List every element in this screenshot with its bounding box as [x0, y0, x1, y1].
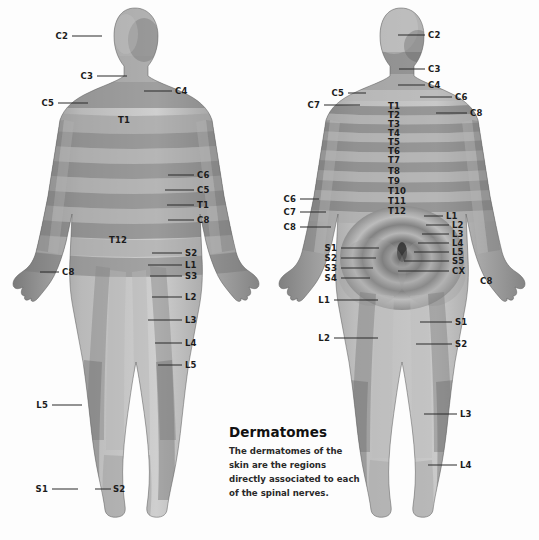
- dermatome-label-t9: T9: [388, 177, 400, 186]
- dermatome-label-l2: L2: [318, 334, 330, 343]
- dermatome-label-c2: C2: [55, 32, 68, 41]
- leader-line: [341, 248, 379, 249]
- leader-line: [420, 97, 452, 98]
- leader-line: [167, 205, 194, 206]
- dermatome-label-l4: L4: [460, 461, 472, 470]
- dermatome-label-c6: C6: [283, 195, 296, 204]
- leader-line: [428, 465, 457, 466]
- leader-line: [424, 414, 457, 415]
- dermatome-label-c6: C6: [197, 171, 210, 180]
- dermatome-label-t7: T7: [388, 156, 400, 165]
- dermatome-label-t1: T1: [197, 201, 209, 210]
- leader-line: [399, 69, 425, 70]
- leader-line: [418, 243, 449, 244]
- dermatome-label-s3: S3: [325, 264, 337, 273]
- dermatome-label-l4: L4: [185, 339, 197, 348]
- dermatome-label-c8: C8: [283, 223, 296, 232]
- leader-line: [334, 338, 378, 339]
- leader-line: [426, 225, 449, 226]
- leader-line: [168, 175, 194, 176]
- dermatome-label-c4: C4: [428, 81, 441, 90]
- dermatome-label-c2: C2: [428, 31, 441, 40]
- leader-line: [58, 103, 88, 104]
- dermatome-label-c5: C5: [197, 186, 210, 195]
- dermatome-label-l2: L2: [185, 293, 197, 302]
- leader-line: [72, 36, 102, 37]
- dermatome-label-t10: T10: [388, 187, 406, 196]
- dermatome-label-c8: C8: [197, 216, 210, 225]
- dermatome-label-c7: C7: [283, 208, 296, 217]
- leader-line: [148, 320, 182, 321]
- dermatome-label-l3: L3: [185, 316, 197, 325]
- caption-block: Dermatomes The dermatomes of the skin ar…: [229, 424, 361, 501]
- dermatome-label-c3: C3: [80, 72, 93, 81]
- leader-line: [404, 261, 449, 262]
- leader-line: [168, 220, 194, 221]
- dermatome-label-t12: T12: [388, 207, 406, 216]
- leader-line: [398, 271, 449, 272]
- dermatome-label-s4: S4: [325, 274, 337, 283]
- dermatome-label-cx: CX: [452, 267, 465, 276]
- dermatome-label-s1: S1: [325, 244, 337, 253]
- leader-line: [40, 272, 59, 273]
- caption-title: Dermatomes: [229, 424, 361, 440]
- leader-line: [97, 76, 127, 77]
- leader-line: [52, 489, 78, 490]
- leader-line: [165, 190, 194, 191]
- dermatome-label-l5: L5: [185, 361, 197, 370]
- leader-line: [324, 105, 360, 106]
- dermatome-label-c5: C5: [331, 89, 344, 98]
- leader-line: [398, 85, 425, 86]
- leader-line: [424, 216, 443, 217]
- dermatome-label-c8: C8: [62, 268, 75, 277]
- dermatome-label-c3: C3: [428, 65, 441, 74]
- leader-line: [158, 365, 182, 366]
- dermatome-label-s5: S5: [452, 257, 464, 266]
- dermatome-label-c5: C5: [41, 99, 54, 108]
- leader-line: [52, 405, 82, 406]
- caption-body: The dermatomes of the skin are the regio…: [229, 445, 361, 501]
- dermatome-label-t1: T1: [118, 116, 130, 125]
- dermatome-label-l5: L5: [36, 401, 48, 410]
- dermatome-label-c7: C7: [307, 101, 320, 110]
- leader-line: [341, 268, 373, 269]
- leader-line: [300, 227, 331, 228]
- leader-line: [95, 489, 111, 490]
- dermatome-label-s1: S1: [455, 318, 467, 327]
- leader-line: [334, 300, 378, 301]
- leader-line: [152, 253, 182, 254]
- dermatome-label-l1: L1: [185, 261, 197, 270]
- leader-line: [150, 276, 182, 277]
- dermatome-label-t8: T8: [388, 167, 400, 176]
- leader-line: [144, 91, 172, 92]
- dermatomes-illustration: C2C3C4C5T1C6C5T1C8T12C8S2L1S3L2L3L4L5L5S…: [0, 0, 539, 540]
- dermatome-label-s2: S2: [455, 340, 467, 349]
- leader-line: [341, 258, 376, 259]
- leader-line: [148, 265, 182, 266]
- leader-line: [348, 93, 366, 94]
- dermatome-label-s2: S2: [113, 485, 125, 494]
- dermatome-label-c8: C8: [470, 109, 483, 118]
- leader-line: [416, 344, 452, 345]
- leader-line: [422, 234, 449, 235]
- dermatome-label-s2: S2: [325, 254, 337, 263]
- dermatome-label-c6: C6: [455, 93, 468, 102]
- leader-line: [436, 113, 467, 114]
- leader-line: [420, 322, 452, 323]
- dermatome-label-l1: L1: [318, 296, 330, 305]
- dermatome-label-s1: S1: [36, 485, 48, 494]
- dermatome-label-l3: L3: [460, 410, 472, 419]
- dermatome-label-s2: S2: [185, 249, 197, 258]
- dermatome-label-c8: C8: [480, 277, 493, 286]
- dermatome-label-t11: T11: [388, 197, 406, 206]
- leader-line: [398, 35, 425, 36]
- leader-line: [300, 199, 319, 200]
- dermatome-label-c4: C4: [175, 87, 188, 96]
- leader-line: [152, 297, 182, 298]
- leader-line: [341, 278, 370, 279]
- leader-line: [155, 343, 182, 344]
- dermatome-label-t12: T12: [109, 236, 127, 245]
- leader-line: [414, 252, 449, 253]
- leader-line: [300, 212, 326, 213]
- dermatome-label-s3: S3: [185, 272, 197, 281]
